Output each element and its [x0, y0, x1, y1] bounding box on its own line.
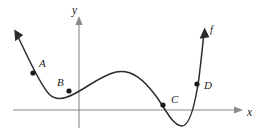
function-curve [16, 32, 204, 126]
y-axis-group [75, 16, 82, 128]
x-axis-group [13, 106, 243, 113]
point-label-d: D [203, 79, 212, 91]
point-dot-c [160, 102, 165, 107]
function-curve-group [14, 28, 209, 127]
point-label-a: A [38, 57, 46, 69]
function-graph-figure: A B C D y x f [0, 0, 269, 132]
point-label-c: C [171, 93, 179, 105]
x-axis-label: x [246, 106, 253, 118]
graph-canvas: A B C D y x f [0, 0, 269, 132]
point-label-b: B [57, 76, 64, 88]
point-dot-a [30, 70, 35, 75]
x-axis-arrowhead [234, 106, 243, 113]
y-axis-arrowhead [75, 16, 82, 25]
curve-right-arrowhead [200, 28, 210, 39]
function-name-label: f [210, 24, 215, 35]
point-dot-d [194, 81, 199, 86]
y-axis-label: y [71, 4, 78, 17]
point-dot-b [66, 88, 71, 93]
